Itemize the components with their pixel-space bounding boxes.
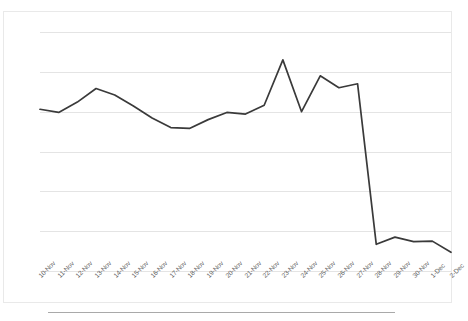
x-tick-label: 13-Nov <box>93 259 113 279</box>
x-tick-label: 1-Dec <box>429 262 446 279</box>
x-tick-label: 24-Nov <box>299 259 319 279</box>
x-tick-label: 30-Nov <box>411 259 431 279</box>
x-tick-label: 18-Nov <box>186 259 206 279</box>
bottom-divider-rule <box>48 312 395 313</box>
x-tick-label: 14-Nov <box>112 259 132 279</box>
x-tick-label: 27-Nov <box>355 259 375 279</box>
x-tick-label: 26-Nov <box>336 259 356 279</box>
x-tick-label: 10-Nov <box>37 259 57 279</box>
x-tick-label: 17-Nov <box>168 259 188 279</box>
x-tick-label: 23-Nov <box>280 259 300 279</box>
x-axis-tick-labels: 10-Nov11-Nov12-Nov13-Nov14-Nov15-Nov16-N… <box>0 0 468 321</box>
x-tick-label: 22-Nov <box>261 259 281 279</box>
x-tick-label: 12-Nov <box>74 259 94 279</box>
x-tick-label: 29-Nov <box>392 259 412 279</box>
x-tick-label: 19-Nov <box>205 259 225 279</box>
x-tick-label: 2-Dec <box>448 262 465 279</box>
line-chart-figure: 0.00030.000250.00020.000150.00010.000050… <box>0 0 468 321</box>
x-tick-label: 16-Nov <box>149 259 169 279</box>
x-tick-label: 28-Nov <box>373 259 393 279</box>
x-tick-label: 25-Nov <box>317 259 337 279</box>
x-tick-label: 21-Nov <box>243 259 263 279</box>
x-tick-label: 20-Nov <box>224 259 244 279</box>
x-tick-label: 15-Nov <box>130 259 150 279</box>
x-tick-label: 11-Nov <box>56 260 75 279</box>
